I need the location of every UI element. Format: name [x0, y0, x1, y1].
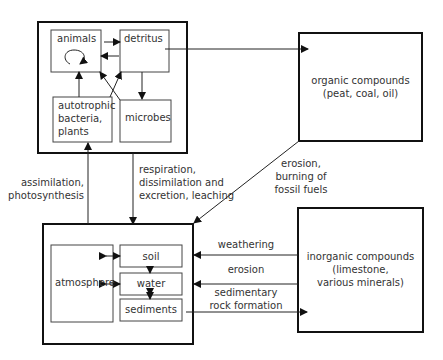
erosion-burning-line-1: erosion, [268, 157, 334, 170]
inorganic-line-2: (limestone, [298, 263, 423, 276]
microbes-label: microbes [125, 111, 171, 124]
weathering-label: weathering [196, 238, 296, 251]
organic-label: organic compounds (peat, coal, oil) [299, 74, 422, 100]
inorganic-line-1: inorganic compounds [298, 250, 423, 263]
water-label: water [120, 277, 182, 290]
erosion-burning-line-3: fossil fuels [268, 183, 334, 196]
autotrophic-line-1: autotrophic [58, 99, 115, 112]
respiration-label: respiration, dissimilation and excretion… [139, 163, 234, 202]
respiration-line-2: dissimilation and [139, 176, 234, 189]
erosion-label: erosion [196, 263, 296, 276]
animals-self-loop [65, 50, 84, 64]
organic-line-1: organic compounds [299, 74, 422, 87]
erosion-burning-line-2: burning of [268, 170, 334, 183]
animals-label: animals [57, 32, 96, 45]
soil-label: soil [120, 250, 182, 263]
autotrophic-line-2: bacteria, [58, 112, 115, 125]
inorganic-line-3: various minerals) [298, 276, 423, 289]
sedimentary-line-2: rock formation [196, 299, 296, 312]
sedimentary-line-1: sedimentary [196, 286, 296, 299]
assimilation-line-1: assimilation, [2, 176, 84, 189]
respiration-line-1: respiration, [139, 163, 234, 176]
erosion-burning-label: erosion, burning of fossil fuels [268, 157, 334, 196]
assimilation-line-2: photosynthesis [2, 189, 84, 202]
detritus-label: detritus [124, 32, 163, 45]
autotrophic-label: autotrophic bacteria, plants [58, 99, 115, 138]
organic-line-2: (peat, coal, oil) [299, 87, 422, 100]
sediments-label: sediments [120, 303, 182, 316]
assimilation-label: assimilation, photosynthesis [2, 176, 84, 202]
respiration-line-3: excretion, leaching [139, 189, 234, 202]
atmosphere-label: atmosphere [55, 276, 115, 289]
inorganic-label: inorganic compounds (limestone, various … [298, 250, 423, 289]
autotrophic-line-3: plants [58, 125, 115, 138]
sedimentary-label: sedimentary rock formation [196, 286, 296, 312]
